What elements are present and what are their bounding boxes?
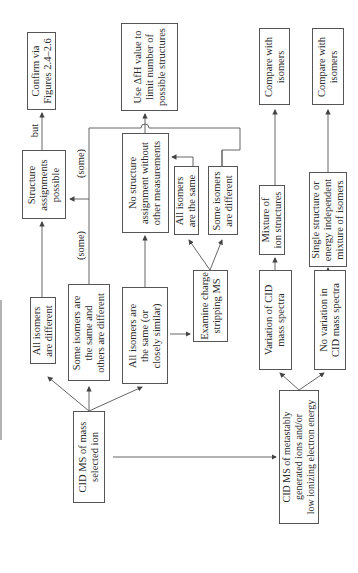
node-text: Structure bbox=[26, 159, 38, 210]
node-text: All isomers are bbox=[127, 303, 139, 368]
node-text: the same (or bbox=[139, 303, 151, 368]
node-text: low ionizing electron energy bbox=[305, 400, 317, 515]
node-text: Compare with bbox=[263, 37, 275, 97]
node-text: Mixture of bbox=[260, 192, 272, 249]
node-mixture: Mixture ofion structures bbox=[259, 185, 285, 255]
node-text: mixture of isomers bbox=[334, 178, 346, 260]
node-cs-some-different: Some isomersare different bbox=[208, 166, 238, 235]
node-text: limit number of bbox=[144, 28, 156, 106]
node-text: assignments bbox=[38, 159, 50, 210]
node-single-structure: Single structure orenergy independentmix… bbox=[309, 172, 347, 267]
node-start: CID MS of massselected ion bbox=[73, 411, 105, 503]
edge-label-some-2: (some) bbox=[75, 149, 86, 178]
node-no-structure: No structureassignment withoutother meas… bbox=[122, 133, 169, 233]
node-text: CID mass spectra bbox=[330, 283, 342, 357]
node-text: energy independent bbox=[322, 178, 334, 260]
node-all-same: All isomers arethe same (orclosely simil… bbox=[122, 287, 168, 384]
node-compare-1: Compare withisomers bbox=[259, 28, 290, 105]
node-text: ion structures bbox=[272, 192, 284, 249]
node-text: CID MS of mass bbox=[77, 422, 89, 493]
node-text: CID MS of metastably bbox=[281, 400, 293, 515]
node-text: stripping MS bbox=[211, 272, 223, 340]
node-some-same: Some isomers arethe same andothers are d… bbox=[68, 284, 110, 381]
node-text: Use ΔfH value to bbox=[132, 28, 144, 106]
node-text: No variation in bbox=[318, 283, 330, 357]
node-text: closely similar) bbox=[151, 303, 163, 368]
node-text: Compare with bbox=[316, 37, 328, 97]
node-text: Confirm via bbox=[30, 38, 42, 104]
node-text: isomers bbox=[328, 37, 340, 97]
node-metastable: CID MS of metastablygenerated ions and/o… bbox=[279, 390, 319, 524]
node-text: others are different bbox=[95, 293, 107, 373]
node-text: All isomers bbox=[175, 174, 187, 226]
node-charge-stripping: Examine chargestripping MS bbox=[193, 270, 228, 342]
node-text: generated ions and/or bbox=[293, 400, 305, 515]
node-all-different: All isomersare different bbox=[30, 297, 56, 364]
node-use-dfh: Use ΔfH value tolimit number ofpossible … bbox=[121, 23, 178, 111]
node-structure-possible: Structureassignmentspossible bbox=[22, 150, 66, 219]
node-text: selected ion bbox=[89, 422, 101, 493]
node-text: possible bbox=[50, 159, 62, 210]
node-variation: Variation of CIDmass spectra bbox=[259, 270, 292, 370]
node-text: mass spectra bbox=[276, 285, 288, 356]
edge-label-some-1: (some) bbox=[75, 231, 86, 260]
node-text: Some isomers are bbox=[71, 293, 83, 373]
node-text: are the same bbox=[187, 174, 199, 226]
edge-label-but: but bbox=[29, 124, 40, 137]
node-text: possible structures bbox=[156, 28, 168, 106]
node-text: Single structure or bbox=[310, 178, 322, 260]
node-text: Examine charge bbox=[199, 272, 211, 340]
node-text: are different bbox=[43, 305, 55, 356]
node-text: the same and bbox=[83, 293, 95, 373]
node-text: No structure bbox=[128, 141, 140, 225]
node-text: isomers bbox=[275, 37, 287, 97]
node-text: are different bbox=[223, 171, 235, 230]
node-text: Variation of CID bbox=[264, 285, 276, 356]
node-text: Figures 2.4–2.6 bbox=[42, 38, 54, 104]
node-text: Some isomers bbox=[211, 171, 223, 230]
node-text: assignment without bbox=[140, 141, 152, 225]
node-compare-2: Compare withisomers bbox=[312, 28, 344, 105]
node-text: All isomers bbox=[31, 305, 43, 356]
node-text: other measurements bbox=[152, 141, 164, 225]
node-cs-all-same: All isomersare the same bbox=[174, 166, 199, 235]
node-no-variation: No variation inCID mass spectra bbox=[314, 270, 346, 370]
node-confirm: Confirm viaFigures 2.4–2.6 bbox=[27, 32, 56, 110]
